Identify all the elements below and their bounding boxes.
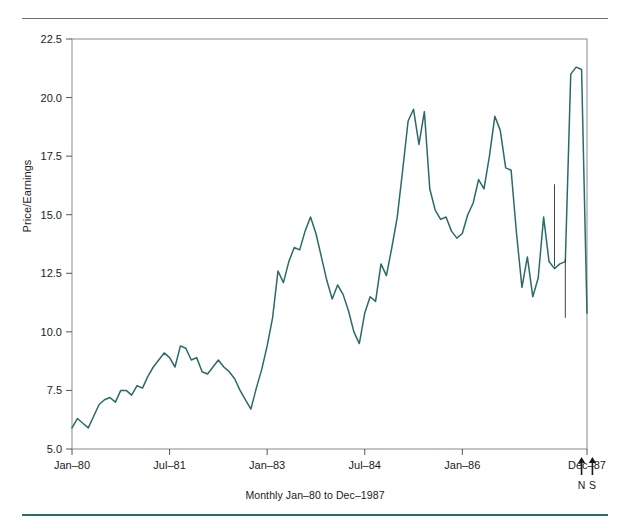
y-axis-tick-label: 12.5 — [41, 267, 62, 279]
chart-figure: 5.07.510.012.515.017.520.022.5Jan–80Jul–… — [0, 0, 630, 512]
bottom-accent-rule — [22, 514, 608, 516]
y-axis-tick-label: 5.0 — [47, 443, 62, 455]
y-axis-tick-label: 22.5 — [41, 33, 62, 45]
y-axis-tick-label: 10.0 — [41, 326, 62, 338]
x-axis-tick-label: Jan–86 — [444, 459, 480, 471]
y-axis-tick-label: 7.5 — [47, 384, 62, 396]
y-axis-label: Price/Earnings — [21, 136, 33, 256]
y-axis-tick-label: 15.0 — [41, 209, 62, 221]
figure-page: 5.07.510.012.515.017.520.022.5Jan–80Jul–… — [0, 0, 630, 532]
data-series-line — [72, 67, 587, 428]
plot-frame — [72, 39, 587, 449]
price-earnings-line-chart: 5.07.510.012.515.017.520.022.5Jan–80Jul–… — [0, 0, 630, 512]
figure-caption: Monthly Jan–80 to Dec–1987 — [0, 489, 630, 501]
x-axis-tick-label: Dec–87 — [568, 459, 606, 471]
x-axis-tick-label: Jul–84 — [349, 459, 381, 471]
y-axis-tick-label: 17.5 — [41, 150, 62, 162]
x-axis-tick-label: Jan–80 — [54, 459, 90, 471]
y-axis-tick-label: 20.0 — [41, 92, 62, 104]
x-axis-tick-label: Jan–83 — [249, 459, 285, 471]
x-axis-tick-label: Jul–81 — [153, 459, 185, 471]
